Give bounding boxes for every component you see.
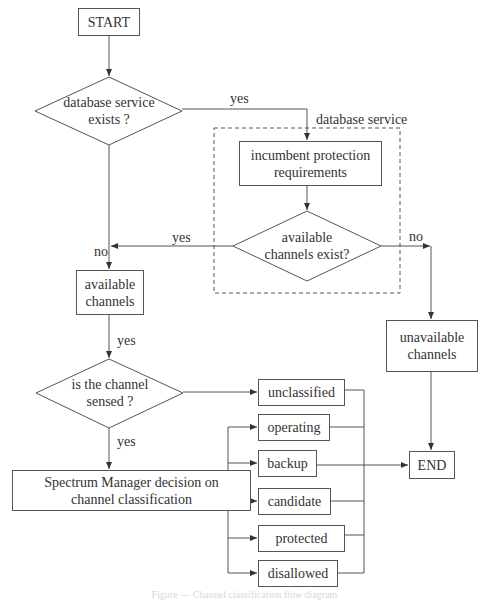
start-label: START: [88, 14, 130, 31]
class-candidate-label: candidate: [268, 493, 322, 510]
class-protected-box: protected: [258, 525, 345, 552]
class-operating-box: operating: [258, 414, 330, 441]
decision-sensed-line2: sensed ?: [36, 393, 184, 410]
class-protected-label: protected: [275, 530, 327, 547]
figure-caption: Figure — Channel classification flow dia…: [0, 589, 489, 600]
channel-classification-flowchart: START database service exists ? yes data…: [0, 0, 489, 604]
spectrum-manager-decision-box: Spectrum Manager decision on channel cla…: [12, 470, 251, 511]
spectrum-manager-line2: channel classification: [71, 491, 192, 508]
available-channels-line2: channels: [86, 293, 135, 310]
class-operating-label: operating: [268, 419, 321, 436]
edge-label-available-yes: yes: [117, 333, 136, 349]
available-channels-line1: available: [85, 276, 136, 293]
decision-available-channels: available channels exist?: [233, 229, 381, 263]
unavailable-channels-line1: unavailable: [400, 329, 465, 346]
decision-available-line2: channels exist?: [233, 246, 381, 263]
class-disallowed-label: disallowed: [268, 565, 329, 582]
decision-database-exists: database service exists ?: [35, 94, 183, 128]
edge-label-avail-yes: yes: [172, 230, 191, 246]
class-unclassified-label: unclassified: [268, 384, 335, 401]
class-unclassified-box: unclassified: [258, 379, 345, 406]
spectrum-manager-line1: Spectrum Manager decision on: [44, 474, 219, 491]
edge-label-db-yes: yes: [230, 91, 249, 107]
end-label: END: [418, 457, 447, 474]
class-disallowed-box: disallowed: [258, 560, 338, 587]
available-channels-box: available channels: [76, 270, 144, 315]
decision-channel-sensed: is the channel sensed ?: [36, 376, 184, 410]
database-service-group-label: database service: [316, 112, 407, 128]
decision-database-exists-line1: database service: [35, 94, 183, 111]
decision-available-line1: available: [233, 229, 381, 246]
unavailable-channels-line2: channels: [408, 346, 457, 363]
start-terminal: START: [78, 8, 140, 36]
class-candidate-box: candidate: [258, 488, 331, 515]
incumbent-line1: incumbent protection: [251, 147, 370, 164]
incumbent-line2: requirements: [274, 164, 347, 181]
incumbent-protection-box: incumbent protection requirements: [239, 141, 382, 186]
decision-database-exists-line2: exists ?: [35, 111, 183, 128]
class-backup-box: backup: [258, 450, 317, 477]
decision-sensed-line1: is the channel: [36, 376, 184, 393]
unavailable-channels-box: unavailable channels: [386, 320, 478, 372]
end-terminal: END: [409, 451, 455, 479]
edge-label-db-no: no: [94, 244, 108, 260]
edge-label-sensed-yes: yes: [117, 434, 136, 450]
class-backup-label: backup: [267, 455, 307, 472]
edge-label-avail-no: no: [409, 229, 423, 245]
